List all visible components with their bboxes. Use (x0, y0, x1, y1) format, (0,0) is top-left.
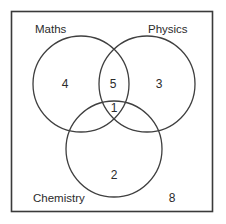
venn-diagram-figure: Maths Physics Chemistry 4 5 3 1 2 8 (0, 0, 226, 224)
count-physics-only: 3 (156, 77, 163, 91)
maths-set-label: Maths (35, 23, 67, 35)
venn-diagram-canvas: Maths Physics Chemistry 4 5 3 1 2 8 (0, 0, 226, 224)
physics-set-label: Physics (148, 23, 188, 35)
count-all-three: 1 (111, 101, 118, 115)
count-outside: 8 (169, 191, 176, 205)
chemistry-set-label: Chemistry (33, 192, 85, 204)
count-maths-physics: 5 (110, 77, 117, 91)
count-maths-only: 4 (62, 77, 69, 91)
count-chemistry-only: 2 (111, 168, 118, 182)
